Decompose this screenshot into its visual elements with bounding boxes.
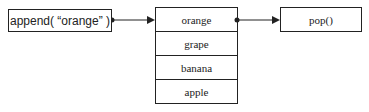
stack-item-label: banana bbox=[181, 62, 212, 74]
stack-item-label: orange bbox=[182, 14, 212, 26]
stack-item-top: orange bbox=[156, 8, 237, 32]
stack-item-bottom: apple bbox=[156, 80, 237, 103]
pop-operation-box: pop() bbox=[280, 7, 362, 32]
stack-item-label: grape bbox=[184, 38, 208, 50]
append-operation-box: append( “orange” ) bbox=[8, 9, 112, 32]
stack-container: orange grape banana apple bbox=[155, 7, 238, 104]
stack-item: banana bbox=[156, 56, 237, 80]
stack-item-label: apple bbox=[185, 86, 209, 98]
pop-label: pop() bbox=[309, 14, 333, 26]
append-label: append( “orange” ) bbox=[10, 14, 110, 28]
stack-item: grape bbox=[156, 32, 237, 56]
push-arrow bbox=[110, 16, 156, 24]
pop-arrow bbox=[235, 16, 281, 24]
